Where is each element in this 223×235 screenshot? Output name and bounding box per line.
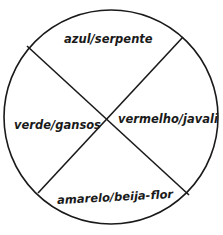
sector-label-top: azul/serpente bbox=[64, 32, 153, 46]
sector-label-left: verde/gansos bbox=[14, 118, 101, 132]
sector-label-right: vermelho/javali bbox=[118, 112, 218, 126]
